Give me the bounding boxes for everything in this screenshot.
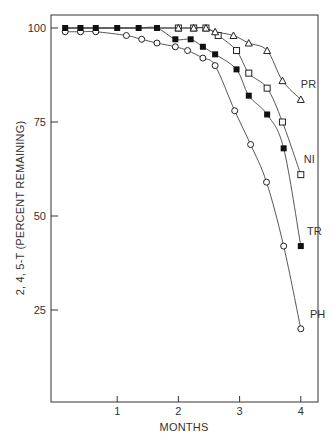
data-point-tr: [93, 25, 99, 31]
data-point-ni: [298, 172, 304, 178]
data-point-ph: [264, 179, 270, 185]
data-point-ni: [246, 70, 252, 76]
data-point-ph: [281, 243, 287, 249]
x-axis-ticks: 1234: [114, 396, 304, 417]
y-axis-ticks: 255075100: [28, 22, 58, 316]
data-point-ph: [185, 48, 191, 54]
x-axis-title: MONTHS: [160, 421, 209, 433]
series-label-pr: PR: [301, 78, 316, 90]
data-point-tr: [114, 25, 120, 31]
series-labels: PHTRNIPR: [301, 78, 326, 319]
series-label-ph: PH: [310, 308, 325, 320]
series-line-ni: [62, 27, 301, 174]
data-point-ph: [123, 33, 129, 39]
series-markers: [62, 25, 304, 332]
data-point-ph: [139, 36, 145, 42]
y-tick-label: 100: [28, 22, 46, 34]
data-point-tr: [234, 66, 240, 72]
data-point-ph: [298, 326, 304, 332]
y-tick-label: 75: [34, 116, 46, 128]
data-point-tr: [212, 51, 218, 57]
y-tick-label: 25: [34, 304, 46, 316]
data-point-tr: [188, 36, 194, 42]
x-tick-label: 1: [114, 405, 120, 417]
data-point-tr: [200, 44, 206, 50]
data-point-ph: [212, 63, 218, 69]
data-point-tr: [264, 111, 270, 117]
series-label-ni: NI: [304, 153, 315, 165]
chart: 255075100 1234 PHTRNIPR MONTHS 2, 4, 5-T…: [0, 0, 333, 438]
data-point-ph: [232, 108, 238, 114]
data-point-ph: [154, 40, 160, 46]
data-point-ni: [279, 119, 285, 125]
series-lines: [62, 27, 301, 329]
data-point-ni: [234, 48, 240, 54]
series-line-tr: [65, 27, 301, 246]
data-point-tr: [246, 93, 252, 99]
data-point-tr: [77, 25, 83, 31]
data-point-tr: [62, 25, 68, 31]
data-point-tr: [136, 25, 142, 31]
data-point-pr: [279, 77, 286, 84]
data-point-ni: [264, 85, 270, 91]
y-tick-label: 50: [34, 210, 46, 222]
data-point-tr: [172, 36, 178, 42]
data-point-tr: [154, 25, 160, 31]
x-tick-label: 4: [298, 405, 304, 417]
x-tick-label: 2: [175, 405, 181, 417]
data-point-ph: [172, 44, 178, 50]
data-point-tr: [298, 243, 304, 249]
y-axis-title: 2, 4, 5-T (PERCENT REMAINING): [14, 121, 26, 296]
data-point-pr: [245, 40, 252, 47]
data-point-tr: [281, 145, 287, 151]
x-tick-label: 3: [237, 405, 243, 417]
data-point-ph: [248, 142, 254, 148]
series-label-tr: TR: [307, 225, 322, 237]
data-point-ph: [200, 55, 206, 61]
